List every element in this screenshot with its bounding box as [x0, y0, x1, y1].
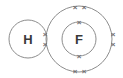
- hf-electron-shell-diagram: H F ××××××××××: [0, 0, 123, 78]
- electron-lone-pair-mark: ×: [111, 40, 116, 49]
- electron-lone-pair-mark: ×: [111, 30, 116, 39]
- fluorine-atom-label: F: [75, 32, 83, 47]
- electron-lone-pair-mark: ×: [82, 67, 87, 76]
- electron-inner-electron-mark: ×: [77, 18, 82, 27]
- electron-lone-pair-mark: ×: [82, 3, 87, 12]
- electron-lone-pair-mark: ×: [73, 3, 78, 12]
- hydrogen-atom-label: H: [23, 32, 32, 47]
- electron-bonding-pair-mark: ×: [43, 40, 48, 49]
- diagram-canvas: H F ××××××××××: [0, 0, 123, 78]
- electron-lone-pair-mark: ×: [73, 67, 78, 76]
- electron-inner-electron-mark: ×: [77, 52, 82, 61]
- electron-bonding-pair-mark: ×: [43, 30, 48, 39]
